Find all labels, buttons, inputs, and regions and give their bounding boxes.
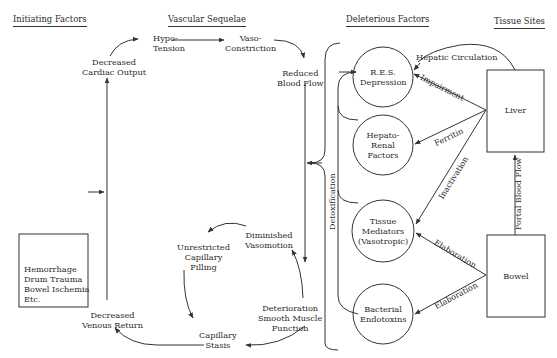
node-line: Stasis	[199, 340, 237, 350]
initiating-line: Etc.	[24, 294, 89, 304]
node-unrestricted-capillary-filling: Unrestricted Capillary Filling	[177, 242, 230, 272]
node-line: Mediators	[358, 226, 408, 236]
header-deleterious-factors: Deleterious Factors	[346, 14, 429, 27]
edge-label-portal-blood-flow: Portal Blood Flow	[514, 158, 523, 230]
node-diminished-vasomotion: Diminished Vasomotion	[245, 230, 293, 250]
node-deterioration-smooth-muscle: Deterioration Smooth Muscle Function	[258, 303, 322, 333]
initiating-line: Drum Trauma	[24, 274, 89, 284]
node-capillary-stasis: Capillary Stasis	[199, 330, 237, 350]
edge-label-hepatic-circulation: Hepatic Circulation	[416, 52, 497, 62]
node-bacterial-endotoxins: Bacterial Endotoxins	[360, 304, 406, 324]
header-tissue-sites: Tissue Sites	[494, 16, 545, 29]
node-hypotension: Hypo- Tension	[153, 33, 185, 53]
node-line: Hypo-	[153, 33, 185, 43]
node-line: Depression	[360, 77, 406, 87]
node-line: Deterioration	[258, 303, 322, 313]
node-line: Vaso-	[225, 33, 276, 43]
initiating-line: Hemorrhage	[24, 264, 89, 274]
node-line: R.E.S.	[360, 67, 406, 77]
node-line: Renal	[360, 140, 406, 150]
box-bowel: Bowel	[487, 271, 545, 281]
header-initiating-factors: Initiating Factors	[13, 14, 87, 27]
node-line: Reduced	[277, 68, 324, 78]
node-line: Diminished	[245, 230, 293, 240]
node-vasoconstriction: Vaso- Constriction	[225, 33, 276, 53]
node-line: (Vasotropic)	[358, 236, 408, 246]
node-tissue-mediators: Tissue Mediators (Vasotropic)	[358, 216, 408, 246]
node-line: Tension	[153, 43, 185, 53]
node-line: Factors	[360, 150, 406, 160]
node-line: Venous Return	[82, 320, 143, 330]
label-detoxification: Detoxification	[328, 173, 337, 230]
initiating-box: Hemorrhage Drum Trauma Bowel Ischemia Et…	[24, 264, 89, 304]
node-line: Smooth Muscle	[258, 313, 322, 323]
node-line: Capillary	[177, 252, 230, 262]
node-line: Endotoxins	[360, 314, 406, 324]
header-vascular-sequelae: Vascular Sequelae	[168, 14, 246, 27]
node-line: Hepato-	[360, 130, 406, 140]
node-line: Filling	[177, 262, 230, 272]
node-line: Decreased	[82, 310, 143, 320]
node-decreased-cardiac-output: Decreased Cardiac Output	[82, 57, 146, 77]
node-decreased-venous-return: Decreased Venous Return	[82, 310, 143, 330]
node-line: Vasomotion	[245, 240, 293, 250]
node-line: Decreased	[82, 57, 146, 67]
node-line: Cardiac Output	[82, 67, 146, 77]
node-line: Tissue	[358, 216, 408, 226]
box-liver: Liver	[487, 105, 544, 115]
node-line: Blood Flow	[277, 78, 324, 88]
node-line: Constriction	[225, 43, 276, 53]
node-hepato-renal-factors: Hepato- Renal Factors	[360, 130, 406, 160]
node-line: Unrestricted	[177, 242, 230, 252]
node-res-depression: R.E.S. Depression	[360, 67, 406, 87]
node-line: Capillary	[199, 330, 237, 340]
initiating-line: Bowel Ischemia	[24, 284, 89, 294]
node-reduced-blood-flow: Reduced Blood Flow	[277, 68, 324, 88]
node-line: Bacterial	[360, 304, 406, 314]
node-line: Function	[258, 323, 322, 333]
